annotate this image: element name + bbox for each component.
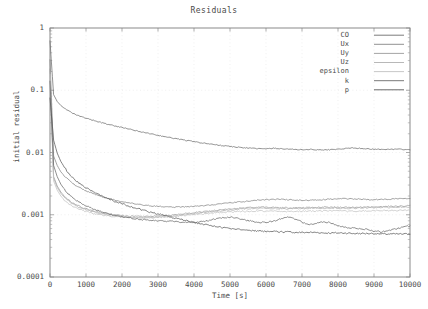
legend-line-samples — [374, 35, 404, 90]
y-tick-label: 0.0001 — [0, 273, 44, 281]
residuals-plot: Residuals initial residual Time [s] 10.1… — [0, 0, 428, 309]
series-line-uy — [50, 69, 410, 217]
legend-label-co: CO — [341, 31, 349, 39]
data-series-layer — [50, 41, 410, 235]
y-tick-label: 0.1 — [0, 86, 44, 94]
legend-label-k: k — [345, 77, 349, 85]
y-tick-label: 0.01 — [0, 149, 44, 157]
y-tick-label: 0.001 — [0, 211, 44, 219]
x-tick-label: 10000 — [380, 281, 428, 289]
plot-canvas — [0, 0, 428, 309]
y-tick-label: 1 — [0, 24, 44, 32]
legend-label-uz: Uz — [341, 58, 349, 66]
legend-label-p: p — [345, 86, 349, 94]
series-line-ux — [50, 60, 410, 208]
legend-label-uy: Uy — [341, 49, 349, 57]
legend-label-ux: Ux — [341, 40, 349, 48]
legend-label-epsilon: epsilon — [319, 67, 349, 75]
gridlines — [50, 28, 410, 277]
